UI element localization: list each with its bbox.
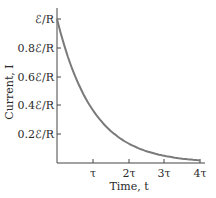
y-tick-label: 0.2ℰ/R [18, 128, 55, 141]
x-tick-label: τ [90, 167, 96, 180]
y-tick-label: ℰ/R [35, 13, 55, 26]
x-axis-title: Time, t [109, 180, 149, 193]
x-tick-label: 2τ [122, 167, 135, 180]
y-ticks [57, 19, 61, 134]
current-decay-chart: ℰ/R 0.8ℰ/R 0.6ℰ/R 0.4ℰ/R 0.2ℰ/R τ 2τ 3τ … [0, 0, 216, 198]
current-decay-curve [57, 19, 200, 160]
y-tick-label: 0.4ℰ/R [18, 99, 55, 112]
y-tick-labels: ℰ/R 0.8ℰ/R 0.6ℰ/R 0.4ℰ/R 0.2ℰ/R [18, 13, 55, 141]
x-tick-label: 4τ [193, 167, 206, 180]
y-axis-title: Current, I [3, 64, 16, 119]
x-tick-labels: τ 2τ 3τ 4τ [90, 167, 207, 180]
y-tick-label: 0.6ℰ/R [18, 71, 55, 84]
x-tick-label: 3τ [157, 167, 170, 180]
y-tick-label: 0.8ℰ/R [18, 42, 55, 55]
